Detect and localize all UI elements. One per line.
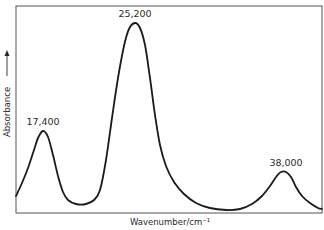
arrow-up-icon xyxy=(5,50,10,76)
plot-frame xyxy=(16,6,322,213)
spectrum-curve xyxy=(16,23,322,210)
y-axis-label-group: Absorbance xyxy=(2,50,12,137)
x-axis-label: Wavenumber/cm⁻¹ xyxy=(130,217,210,227)
peak-label-1: 25,200 xyxy=(118,8,151,19)
absorbance-spectrum-chart: 17,40025,20038,000 Wavenumber/cm⁻¹ Absor… xyxy=(0,0,324,230)
peak-label-0: 17,400 xyxy=(26,116,59,127)
peak-labels: 17,40025,20038,000 xyxy=(26,8,302,168)
peak-label-2: 38,000 xyxy=(269,157,302,168)
y-axis-label: Absorbance xyxy=(2,87,12,137)
